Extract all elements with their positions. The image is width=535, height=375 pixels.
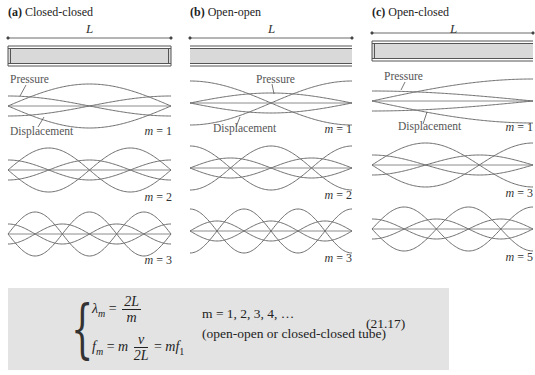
mode-b-1 bbox=[190, 81, 352, 125]
waves bbox=[8, 79, 533, 256]
tubes bbox=[8, 41, 533, 66]
mode-label-a-2: m = 2 bbox=[112, 190, 172, 205]
mode-label-b-3: m = 3 bbox=[292, 251, 352, 266]
left-brace: { bbox=[71, 294, 93, 364]
length-arrows bbox=[7, 32, 534, 39]
mode-b-2 bbox=[190, 146, 352, 190]
mode-label-b-2: m = 2 bbox=[292, 188, 352, 203]
mode-number-condition: m = 1, 2, 3, 4, … bbox=[202, 306, 294, 322]
tube-c bbox=[372, 41, 533, 61]
displacement-label-c: Displacement bbox=[398, 120, 461, 132]
frequency-equation: fm = m v2L = mf1 bbox=[92, 332, 184, 363]
displacement-label-b: Displacement bbox=[213, 122, 276, 134]
wavelength-equation: λm = 2Lm bbox=[92, 294, 143, 325]
mode-c-5 bbox=[372, 207, 533, 251]
formula-box: { λm = 2Lm fm = m v2L = mf1 m = 1, 2, 3,… bbox=[8, 288, 449, 370]
mode-a-3 bbox=[8, 212, 171, 256]
mode-label-a-1: m = 1 bbox=[112, 124, 172, 139]
mode-c-3 bbox=[372, 143, 533, 187]
pressure-label-a: Pressure bbox=[10, 73, 49, 85]
tube-b bbox=[190, 46, 352, 66]
mode-b-3 bbox=[190, 209, 352, 253]
equation-number: (21.17) bbox=[366, 316, 405, 332]
mode-label-c-1: m = 1 bbox=[473, 120, 533, 135]
mode-a-1 bbox=[8, 84, 171, 128]
mode-label-c-2: m = 3 bbox=[473, 186, 533, 201]
mode-a-2 bbox=[8, 148, 171, 192]
pressure-label-c: Pressure bbox=[384, 70, 423, 82]
tube-type-note: (open-open or closed-closed tube) bbox=[202, 326, 386, 342]
mode-label-c-3: m = 5 bbox=[473, 250, 533, 265]
standing-wave-diagram bbox=[0, 0, 535, 285]
mode-c-1 bbox=[372, 79, 533, 123]
pressure-label-b: Pressure bbox=[256, 73, 295, 85]
mode-label-b-1: m = 1 bbox=[292, 122, 352, 137]
tube-a bbox=[8, 46, 171, 66]
displacement-label-a: Displacement bbox=[10, 125, 73, 137]
mode-label-a-3: m = 3 bbox=[112, 253, 172, 268]
